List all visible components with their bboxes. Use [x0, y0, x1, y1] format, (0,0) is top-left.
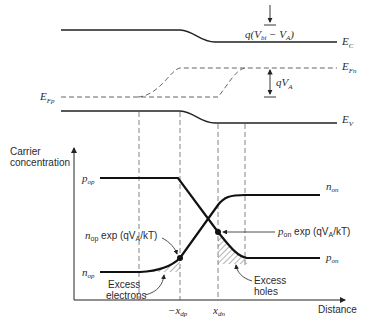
efp-quasi-fermi-line [61, 68, 245, 97]
y-axis-label-line2: concentration [10, 157, 70, 168]
pop-label: pop [81, 172, 95, 186]
ec-label: EC [341, 35, 354, 50]
nop-exp-boundary-dot [177, 255, 183, 261]
efp-label: EFp [39, 90, 55, 105]
pon-label: pon [325, 251, 339, 265]
excess-electrons-label-line2: electrons [106, 290, 147, 301]
nop-exp-pointer [162, 238, 177, 254]
ec-band-line [61, 30, 337, 42]
x-axis-label: Distance [318, 304, 357, 315]
pon-exp-label: pon exp (qVA/kT) [277, 225, 350, 238]
y-axis-label-line1: Carrier [10, 146, 41, 157]
excess-holes-label-line2: holes [254, 286, 278, 297]
excess-holes-label-line1: Excess [254, 275, 286, 286]
ev-band-line [61, 111, 337, 123]
excess-electrons-label-line1: Excess [108, 279, 140, 290]
pon-exp-boundary-dot [215, 229, 221, 235]
qva-label: qVA [276, 76, 293, 91]
xdp-label: −xdp [168, 304, 188, 318]
nop-exp-label: nop exp (qVA/kT) [85, 229, 157, 243]
excess-electrons-pointer [145, 275, 164, 295]
excess-holes-pointer [236, 265, 252, 281]
barrier-label: q(Vbi − VA) [245, 28, 294, 42]
ev-label: EV [341, 113, 354, 128]
efn-label: EFn [341, 60, 357, 75]
non-label: non [326, 180, 339, 194]
xdn-label: xdn [212, 304, 225, 318]
nop-label: nop [82, 266, 95, 280]
pn-junction-diagram: EC q(Vbi − VA) EFn EFp qVA EV Carrier co… [0, 0, 367, 326]
